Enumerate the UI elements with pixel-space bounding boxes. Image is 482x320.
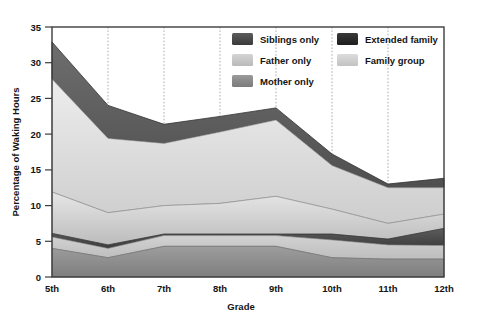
- chart-figure: 35 30 25 20 15 10 5 0 Percentage of Waki…: [0, 0, 482, 320]
- x-tick-label-8th: 8th: [213, 283, 227, 294]
- x-tick-label-11th: 11th: [378, 283, 397, 294]
- y-tick-label: 25: [30, 93, 41, 104]
- x-tick-label-9th: 9th: [269, 283, 283, 294]
- x-axis-title: Grade: [227, 301, 254, 312]
- y-tick-label: 30: [30, 57, 41, 68]
- legend-label-mother-only: Mother only: [260, 76, 315, 87]
- y-tick-label: 35: [30, 22, 41, 33]
- legend-swatch-mother-only: [232, 75, 253, 87]
- y-axis-labels: 35 30 25 20 15 10 5 0: [30, 22, 41, 283]
- legend-label-family-group: Family group: [365, 55, 425, 66]
- x-tick-label-5th: 5th: [45, 283, 59, 294]
- x-axis-labels: 5th 6th 7th 8th 9th 10th 11th 12th: [45, 283, 454, 294]
- y-tick-label: 20: [30, 129, 41, 140]
- legend-swatch-extended-family: [337, 33, 358, 45]
- x-tick-label-10th: 10th: [322, 283, 342, 294]
- legend-label-extended-family: Extended family: [365, 34, 439, 45]
- legend-swatch-father-only: [232, 54, 253, 66]
- stacked-area-chart: 35 30 25 20 15 10 5 0 Percentage of Waki…: [0, 0, 482, 320]
- y-tick-label: 10: [30, 200, 41, 211]
- y-tick-label: 15: [30, 164, 41, 175]
- y-axis-ticks: [45, 27, 52, 277]
- x-tick-label-6th: 6th: [101, 283, 115, 294]
- legend-label-siblings-only: Siblings only: [260, 34, 320, 45]
- legend-swatch-siblings-only: [232, 33, 253, 45]
- y-axis-title: Percentage of Waking Hours: [10, 88, 21, 217]
- x-tick-label-12th: 12th: [434, 283, 454, 294]
- legend-label-father-only: Father only: [260, 55, 312, 66]
- y-tick-label: 0: [36, 272, 41, 283]
- x-tick-label-7th: 7th: [157, 283, 171, 294]
- legend-swatch-family-group: [337, 54, 358, 66]
- y-tick-label: 5: [36, 236, 42, 247]
